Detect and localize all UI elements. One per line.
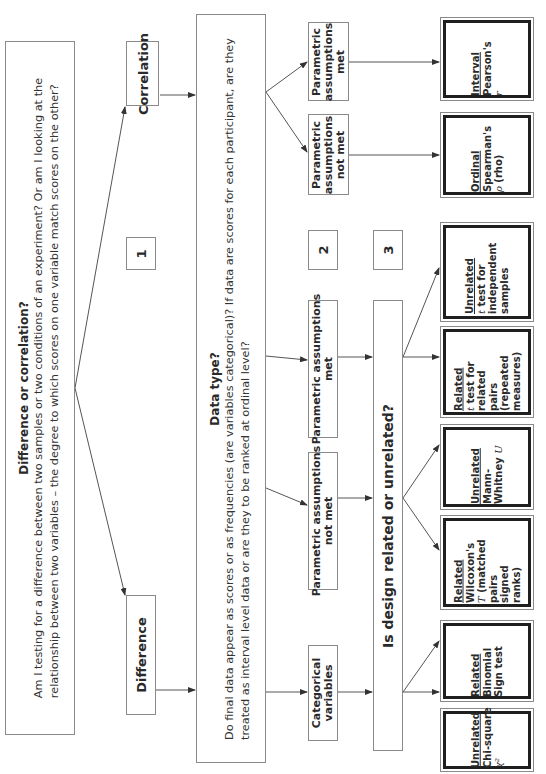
unrelated-t-line3: independent bbox=[487, 230, 499, 314]
chi-square-design: Unrelated bbox=[470, 712, 482, 768]
unrelated-t-symbol: t bbox=[476, 310, 487, 314]
diff-param-met-line2: met bbox=[323, 294, 335, 444]
step-3-badge: 3 bbox=[373, 230, 403, 270]
unrelated-t-line4: samples bbox=[499, 230, 511, 314]
pearson-name: Pearson's bbox=[481, 22, 493, 96]
result-pearson: Interval Pearson's r bbox=[440, 17, 534, 101]
corr-param-not-met-line1: Parametric bbox=[311, 115, 323, 194]
mann-whitney-symbol: U bbox=[493, 445, 504, 453]
corr-param-not-met-line3: not met bbox=[335, 115, 347, 194]
corr-param-not-met-box: Parametric assumptions not met bbox=[308, 114, 349, 195]
data-type-title: Data type? bbox=[208, 37, 222, 739]
diff-param-not-met-line2: not met bbox=[323, 446, 335, 596]
wilcoxon-line5: signed bbox=[499, 523, 511, 603]
related-t-design: Related bbox=[453, 333, 465, 411]
related-t-line5: (repeated bbox=[499, 333, 511, 411]
data-type-box: Data type? Do final data appear as score… bbox=[196, 14, 266, 763]
pearson-design: Interval bbox=[470, 22, 482, 96]
related-t-line6: measures) bbox=[510, 333, 522, 411]
sign-test-name: Sign test bbox=[493, 625, 505, 697]
unrelated-t-name: test for bbox=[476, 265, 487, 310]
root-body-line2: relationship between two variables – the… bbox=[47, 78, 63, 698]
wilcoxon-line6: ranks) bbox=[510, 523, 522, 603]
difference-label: Difference bbox=[134, 617, 149, 693]
corr-param-not-met-line2: assumptions bbox=[323, 115, 335, 194]
correlation-label: Correlation bbox=[135, 32, 150, 114]
root-question-box: Difference or correlation? Am I testing … bbox=[5, 41, 75, 735]
related-t-line3: related bbox=[476, 333, 488, 411]
diff-param-met-box: Parametric assumptions met bbox=[308, 300, 338, 438]
diff-param-not-met-box: Parametric assumptions not met bbox=[308, 452, 338, 590]
mann-whitney-design: Unrelated bbox=[470, 430, 482, 504]
wilcoxon-name: Wilcoxon's bbox=[464, 523, 476, 603]
corr-param-met-line2: assumptions bbox=[323, 22, 335, 101]
related-t-name: test for bbox=[464, 362, 475, 407]
corr-param-met-line3: met bbox=[335, 22, 347, 101]
wilcoxon-symbol: T bbox=[476, 596, 487, 603]
wilcoxon-matched: (matched bbox=[476, 539, 487, 596]
difference-box: Difference bbox=[126, 595, 156, 715]
step-3-label: 3 bbox=[381, 245, 396, 254]
related-t-line4: pairs bbox=[487, 333, 499, 411]
root-title: Difference or correlation? bbox=[17, 78, 31, 698]
result-wilcoxon: Related Wilcoxon's T (matched pairs sign… bbox=[440, 515, 534, 610]
result-related-t: Related t test for related pairs (repeat… bbox=[440, 326, 534, 418]
related-t-symbol: t bbox=[464, 407, 475, 411]
result-spearman: Ordinal Spearman's ρ (rho) bbox=[440, 112, 534, 198]
binomial-name: Binomial bbox=[481, 625, 493, 697]
correlation-box: Correlation bbox=[126, 41, 159, 106]
wilcoxon-line4: pairs bbox=[487, 523, 499, 603]
step-1-badge: 1 bbox=[126, 237, 156, 270]
chi-square-name: Chi-square bbox=[481, 712, 493, 768]
categorical-line2: variables bbox=[323, 658, 335, 729]
design-question-box: Is design related or unrelated? bbox=[373, 300, 403, 751]
pearson-symbol: r bbox=[493, 22, 505, 96]
spearman-symbol: ρ bbox=[493, 186, 504, 192]
chi-square-symbol: χ² bbox=[493, 712, 505, 768]
mann-whitney-line1: Mann- bbox=[481, 430, 493, 504]
unrelated-t-design: Unrelated bbox=[464, 230, 476, 314]
result-binomial: Related Binomial Sign test bbox=[440, 620, 534, 702]
corr-param-met-line1: Parametric bbox=[311, 22, 323, 101]
corr-param-met-box: Parametric assumptions met bbox=[308, 22, 349, 101]
design-question-label: Is design related or unrelated? bbox=[380, 404, 396, 648]
spearman-rho: (rho) bbox=[493, 155, 504, 187]
step-2-label: 2 bbox=[316, 245, 331, 254]
categorical-box: Categorical variables bbox=[308, 645, 338, 741]
result-mann-whitney: Unrelated Mann- Whitney U bbox=[440, 424, 534, 510]
step-1-label: 1 bbox=[134, 249, 149, 258]
data-type-body-line1: Do final data appear as scores or as fre… bbox=[222, 37, 238, 739]
data-type-body-line2: treated as interval level data or are th… bbox=[238, 37, 254, 739]
root-body-line1: Am I testing for a difference between tw… bbox=[31, 78, 47, 698]
spearman-design: Ordinal bbox=[470, 118, 482, 192]
spearman-name: Spearman's bbox=[481, 118, 493, 192]
result-chi-square: Unrelated Chi-square χ² bbox=[440, 708, 534, 772]
mann-whitney-line2: Whitney bbox=[493, 457, 504, 504]
binomial-design: Related bbox=[470, 625, 482, 697]
result-unrelated-t: Unrelated t test for independent samples bbox=[440, 222, 534, 322]
wilcoxon-design: Related bbox=[453, 523, 465, 603]
step-2-badge: 2 bbox=[308, 230, 338, 270]
